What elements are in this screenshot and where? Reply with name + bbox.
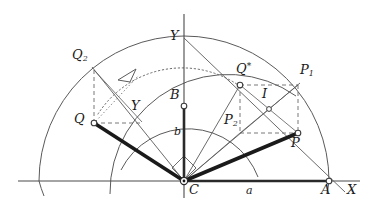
label-Q: Q (74, 112, 85, 125)
line-C-to-Qstar (184, 85, 240, 181)
label-B: B (170, 88, 180, 101)
thick-segment-CP (184, 133, 298, 181)
label-Q2: Y (131, 99, 140, 114)
label-Y-axis: Y (170, 29, 179, 42)
point-marker-C-inner (183, 180, 186, 183)
point-marker-Qstar (237, 82, 243, 88)
label-Qstar: Q* (236, 62, 251, 75)
point-marker-I (267, 107, 272, 112)
line-Q1-to-Q2-region (94, 70, 142, 122)
label-P2: P2 (224, 113, 238, 128)
geometry-canvas (0, 0, 373, 206)
line-C-to-Q1 (92, 67, 184, 181)
label-A: A (321, 183, 330, 196)
thick-segment-CQ (94, 123, 184, 181)
outer-arc-overshoot-left (39, 181, 44, 196)
label-P1: P1 (300, 63, 314, 78)
label-Q1: Q2 (72, 48, 88, 63)
point-marker-Q (91, 120, 97, 126)
label-segment-b: b (174, 126, 181, 137)
label-segment-a: a (246, 185, 253, 196)
point-marker-B (181, 103, 187, 109)
label-I: I (262, 87, 267, 100)
label-P: P (291, 136, 300, 149)
line-C-to-P2 (184, 133, 240, 181)
middle-arc (110, 74, 296, 194)
rotation-arrow-icon (118, 69, 136, 82)
geometry-figure: Q2 Q Y Y B b Q* P1 I P2 P C a A X (0, 0, 373, 206)
label-X-axis: X (347, 183, 356, 196)
label-C-origin: C (189, 183, 199, 196)
